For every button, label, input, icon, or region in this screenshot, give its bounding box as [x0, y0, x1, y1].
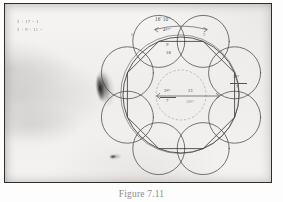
- annotation-vertex-right: 9: [203, 33, 205, 37]
- top-arrow-left: [155, 28, 159, 32]
- figure-caption: Figure 7.11: [0, 183, 283, 202]
- figure-page: 2 + 17 = 1 2 + 9 + 11 = 16' 10" 4½" 9 18…: [0, 0, 283, 202]
- figure-caption-text: Figure 7.11: [119, 189, 165, 199]
- annotation-mid-lower: 18: [166, 51, 171, 56]
- annotation-top-sub-dimension: 4½": [163, 28, 171, 33]
- margin-calculation: 2 + 17 = 1 2 + 9 + 11 =: [17, 18, 43, 34]
- annotation-right-denominator: 7: [236, 85, 239, 90]
- annotation-vertex-left: 6: [131, 33, 133, 37]
- center-circle: [156, 70, 206, 120]
- annotation-right-numerator: 3½: [233, 75, 239, 80]
- annotation-mid-upper: 9: [166, 43, 169, 48]
- annotation-center-denominator: 7: [166, 99, 169, 104]
- geometric-construction-drawing: [5, 4, 271, 182]
- annotation-center-below: 10½: [186, 100, 194, 104]
- annotation-top-dimension: 16' 10": [155, 17, 170, 22]
- calc-line-1: 2 + 17 = 1: [17, 18, 43, 26]
- scanned-plate: 2 + 17 = 1 2 + 9 + 11 = 16' 10" 4½" 9 18…: [4, 3, 272, 183]
- annotation-center-span: 21: [188, 89, 193, 94]
- calc-line-2: 2 + 9 + 11 =: [17, 26, 43, 34]
- annotation-center-numerator: 3½: [164, 89, 170, 94]
